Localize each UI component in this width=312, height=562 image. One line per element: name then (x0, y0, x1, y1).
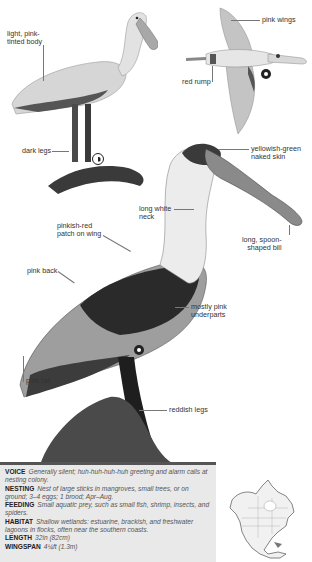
label-pink-tail: pink tail (26, 377, 50, 385)
leader-line (231, 20, 260, 21)
leader-line (289, 225, 290, 235)
label-naked-skin-line2: naked skin (251, 153, 301, 161)
info-key: NESTING (5, 485, 34, 492)
label-pink-wings: pink wings (262, 16, 296, 24)
leader-line (212, 66, 213, 82)
label-body: light, pink- tinted body (7, 30, 42, 47)
adult-symbol-icon (134, 345, 144, 355)
info-voice: VOICEGenerally silent; huh-huh-huh-huh g… (5, 468, 212, 485)
label-pink-underparts: mostly pink underparts (191, 303, 227, 320)
label-body-line2: tinted body (7, 38, 42, 46)
label-pink-underparts-line2: underparts (191, 311, 227, 319)
info-value: Shallow wetlands: estuarine, brackish, a… (5, 518, 193, 533)
info-value: 32in (82cm) (35, 534, 70, 541)
leader-line (175, 307, 189, 308)
label-wing-patch: pinkish-red patch on wing (57, 222, 101, 239)
info-wingspan: WINGSPAN4¼ft (1.3m) (5, 543, 212, 551)
info-length: LENGTH32in (82cm) (5, 534, 212, 542)
label-wing-patch-line2: patch on wing (57, 230, 101, 238)
label-red-rump: red rump (182, 78, 211, 86)
adult-symbol-icon (261, 69, 271, 79)
info-habitat: HABITATShallow wetlands: estuarine, brac… (5, 518, 212, 535)
info-key: VOICE (5, 468, 26, 475)
label-reddish-legs: reddish legs (169, 406, 208, 414)
breeding-spoonbill-illustration (10, 135, 310, 465)
leader-line (43, 45, 44, 81)
range-map (228, 478, 308, 560)
info-key: WINGSPAN (5, 543, 41, 550)
label-long-neck: long white neck (139, 205, 171, 222)
leader-line (174, 209, 194, 210)
label-spoon-bill-line2: shaped bill (242, 244, 282, 252)
label-long-neck-line2: neck (139, 213, 171, 221)
info-value: Small aquatic prey, such as small fish, … (5, 501, 209, 516)
leader-line (23, 356, 24, 382)
info-nesting: NESTINGNest of large sticks in mangroves… (5, 485, 212, 502)
leader-line (139, 410, 167, 411)
info-value: Generally silent; huh-huh-huh-huh greeti… (5, 468, 207, 483)
label-spoon-bill: long, spoon- shaped bill (242, 236, 282, 253)
info-key: FEEDING (5, 501, 34, 508)
label-pink-back: pink back (27, 267, 57, 275)
info-feeding: FEEDINGSmall aquatic prey, such as small… (5, 501, 212, 518)
species-info-box: VOICEGenerally silent; huh-huh-huh-huh g… (0, 462, 216, 562)
north-america-map-icon (228, 478, 308, 560)
info-value: 4¼ft (1.3m) (44, 543, 78, 550)
info-key: LENGTH (5, 534, 32, 541)
leader-line (218, 149, 249, 150)
label-naked-skin: yellowish-green naked skin (251, 145, 301, 162)
info-key: HABITAT (5, 518, 33, 525)
